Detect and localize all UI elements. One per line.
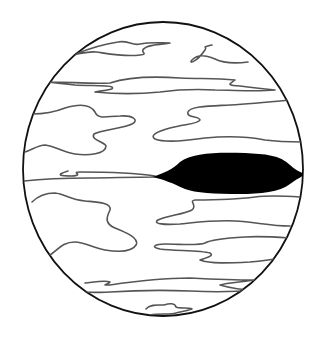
planet-drawing <box>0 0 320 337</box>
